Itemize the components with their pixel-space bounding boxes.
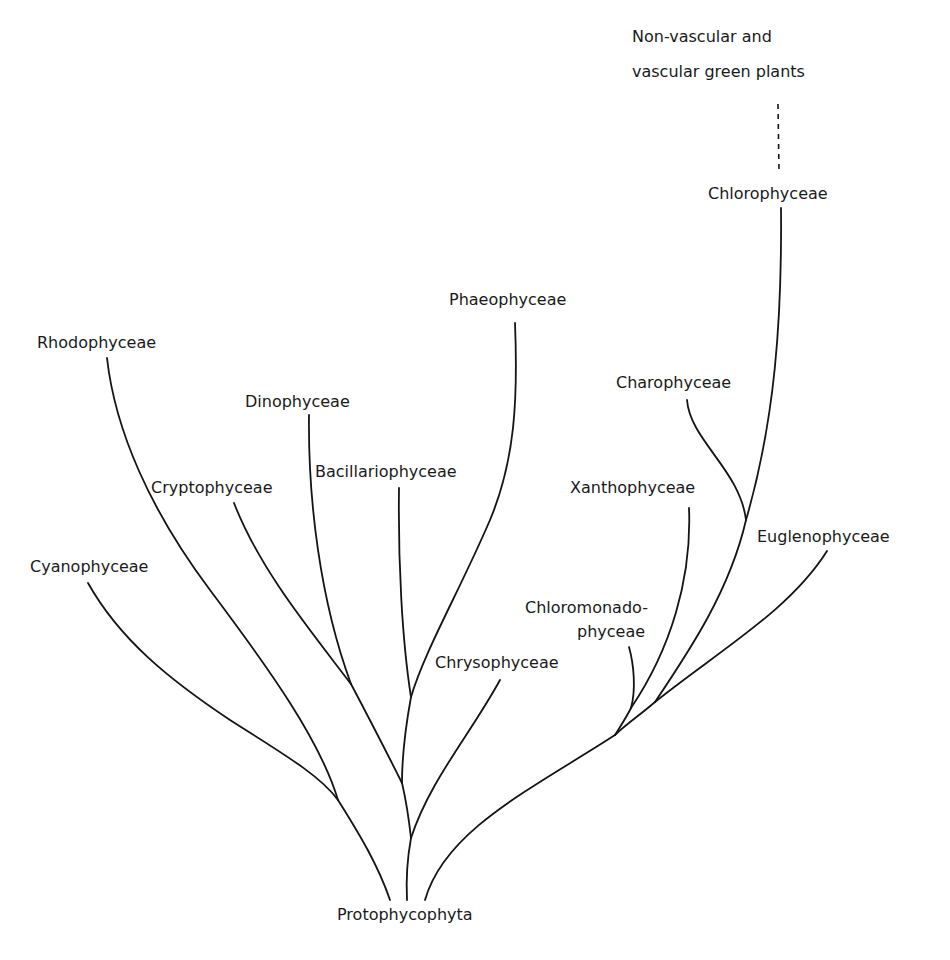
- taxon-label-chrysophyceae: Chrysophyceae: [435, 653, 559, 672]
- mid-stem-upper: [402, 783, 411, 838]
- taxon-label-cyanophyceae: Cyanophyceae: [30, 557, 148, 576]
- phaeophyceae-branch: [411, 323, 516, 697]
- euglenophyceae-branch: [655, 551, 827, 702]
- taxon-label-chlorophyceae: Chlorophyceae: [708, 184, 828, 203]
- taxon-label-cryptophyceae: Cryptophyceae: [151, 478, 273, 497]
- rhodophyceae-branch: [107, 358, 338, 800]
- taxon-label-xanthophyceae: Xanthophyceae: [570, 478, 695, 497]
- charophyceae-branch: [687, 400, 746, 520]
- bacillario-phaeo-stem: [402, 697, 411, 783]
- taxon-label-rhodophyceae: Rhodophyceae: [37, 333, 156, 352]
- euglena-chloro-stem: [615, 702, 655, 735]
- root-left-stem: [338, 800, 390, 900]
- top-label-line-2: vascular green plants: [632, 62, 805, 81]
- chloro-charo-stem: [655, 520, 746, 702]
- cyanophyceae-branch: [88, 583, 338, 800]
- taxon-labels: RhodophyceaeDinophyceaePhaeophyceaeCrypt…: [30, 184, 890, 672]
- crypto-dino-stem: [351, 684, 402, 783]
- taxon-label-chloromonadophyceae_2: phyceae: [577, 622, 645, 641]
- top-label-line-1: Non-vascular and: [632, 27, 772, 46]
- taxon-label-dinophyceae: Dinophyceae: [245, 392, 350, 411]
- chrysophyceae-branch: [411, 680, 500, 838]
- chlorophyceae-branch: [746, 208, 781, 520]
- chloromonadophyceae-branch: [629, 647, 634, 708]
- phylogeny-diagram: RhodophyceaeDinophyceaePhaeophyceaeCrypt…: [0, 0, 950, 960]
- cryptophyceae-branch: [234, 503, 351, 684]
- taxon-label-euglenophyceae: Euglenophyceae: [757, 527, 890, 546]
- dinophyceae-branch: [309, 415, 351, 684]
- taxon-label-charophyceae: Charophyceae: [616, 373, 731, 392]
- taxon-label-chloromonadophyceae_1: Chloromonado-: [525, 598, 648, 617]
- dashed-links: [778, 104, 779, 172]
- root-right-stem: [425, 735, 615, 900]
- branch-lines: [88, 208, 827, 900]
- taxon-label-phaeophyceae: Phaeophyceae: [449, 290, 566, 309]
- bacillariophyceae-branch: [399, 488, 411, 697]
- green-plants-link: [778, 104, 779, 172]
- root-label-protophycophyta: Protophycophyta: [337, 905, 473, 924]
- root-mid-stem: [407, 838, 411, 900]
- xantho-chloromonado-stem: [615, 708, 631, 735]
- taxon-label-bacillariophyceae: Bacillariophyceae: [315, 462, 457, 481]
